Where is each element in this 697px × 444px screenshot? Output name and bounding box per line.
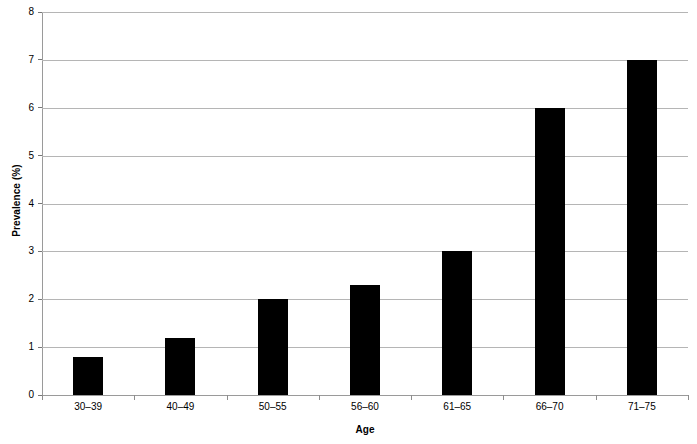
y-axis-tick: 6 (28, 102, 42, 114)
x-axis-tick-label: 56–60 (319, 401, 411, 412)
x-axis-tick-label: 30–39 (42, 401, 134, 412)
bar (350, 285, 380, 395)
x-axis-tick-label: 61–65 (411, 401, 503, 412)
x-axis-tickmark (227, 395, 228, 400)
y-axis-tick-label: 2 (28, 294, 38, 304)
y-axis-ticks: 012345678 (0, 12, 42, 395)
bar-slot (42, 12, 134, 395)
bar (73, 357, 103, 395)
y-axis-tick-label: 3 (28, 246, 38, 256)
y-axis-tick: 0 (28, 389, 42, 401)
x-axis-tickmark (503, 395, 504, 400)
y-axis-tick-label: 5 (28, 151, 38, 161)
x-axis-tick-label: 40–49 (134, 401, 226, 412)
bar-slot (134, 12, 226, 395)
bar-slot (227, 12, 319, 395)
x-axis-tick-label: 66–70 (503, 401, 595, 412)
x-axis-tickmark (319, 395, 320, 400)
x-axis-tickmark (134, 395, 135, 400)
y-axis-tick-label: 1 (28, 342, 38, 352)
bar (442, 251, 472, 395)
bar-slot (411, 12, 503, 395)
y-axis-tick: 8 (28, 6, 42, 18)
bar-slot (319, 12, 411, 395)
x-axis-tickmark (596, 395, 597, 400)
y-axis-tick-label: 8 (28, 7, 38, 17)
y-axis-tick-label: 0 (28, 390, 38, 400)
y-axis-tick-label: 4 (28, 199, 38, 209)
y-axis-tick: 4 (28, 198, 42, 210)
bar-series (42, 12, 688, 395)
bar (627, 60, 657, 395)
bar (535, 108, 565, 395)
bar (165, 338, 195, 395)
y-axis-tick-label: 6 (28, 103, 38, 113)
y-axis-tick: 5 (28, 150, 42, 162)
bar-slot (596, 12, 688, 395)
y-axis-tick-label: 7 (28, 55, 38, 65)
x-axis-title: Age (42, 424, 688, 435)
y-axis-tick: 3 (28, 245, 42, 257)
y-axis-tick: 2 (28, 293, 42, 305)
x-axis-tick-label: 50–55 (227, 401, 319, 412)
y-axis-tick: 7 (28, 54, 42, 66)
bar-slot (503, 12, 595, 395)
bar (258, 299, 288, 395)
x-axis-tickmark (688, 395, 689, 400)
x-axis-labels: 30–3940–4950–5556–6061–6566–7071–75 (42, 401, 688, 412)
y-axis-tick: 1 (28, 341, 42, 353)
x-axis-tickmark (42, 395, 43, 400)
x-axis-tickmark (411, 395, 412, 400)
x-axis-tick-label: 71–75 (596, 401, 688, 412)
bar-chart-figure: Prevalence (%) 012345678 30–3940–4950–55… (0, 0, 697, 444)
